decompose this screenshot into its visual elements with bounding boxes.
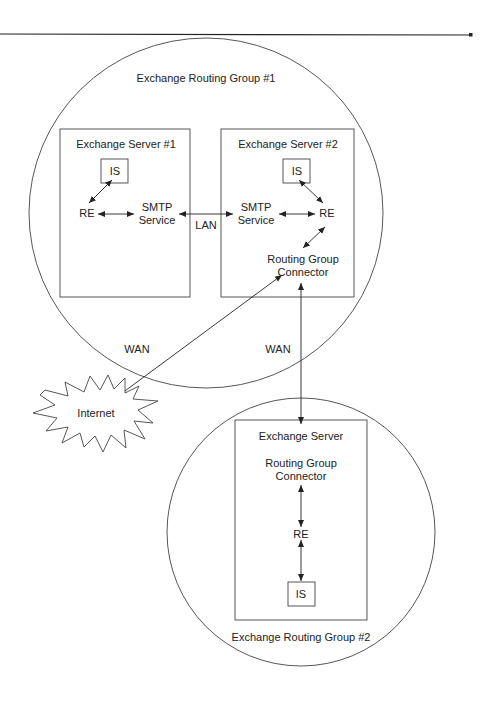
server-1-smtp-line2: Service — [139, 214, 176, 227]
server-2-re-label: RE — [319, 207, 334, 220]
arrow-is-re-2 — [299, 180, 323, 203]
arrow-re-rgc-2 — [303, 227, 325, 248]
server-1-re-label: RE — [79, 207, 94, 220]
routing-group-2-label: Exchange Routing Group #2 — [232, 631, 371, 644]
wan-routing-groups-label: WAN — [265, 343, 290, 356]
server-2-title: Exchange Server #2 — [238, 138, 338, 151]
network-diagram — [0, 0, 494, 703]
internet-label: Internet — [77, 407, 114, 420]
server-1-smtp-label: SMTP Service — [139, 201, 176, 227]
server-1-title: Exchange Server #1 — [76, 138, 176, 151]
top-rule-end-mark — [469, 33, 473, 37]
server-3-title: Exchange Server — [259, 430, 343, 443]
server-2-smtp-label: SMTP Service — [238, 201, 275, 227]
server-3-re-label: RE — [293, 528, 308, 541]
server-1-is-label: IS — [110, 165, 120, 178]
top-rule — [0, 34, 472, 35]
lan-label: LAN — [195, 219, 216, 232]
routing-group-1-label: Exchange Routing Group #1 — [137, 72, 276, 85]
server-2-rgc-label: Routing Group Connector — [267, 253, 339, 279]
server-2-smtp-line1: SMTP — [238, 201, 275, 214]
server-3-rgc-label: Routing Group Connector — [265, 457, 337, 483]
server-2-rgc-line2: Connector — [267, 266, 339, 279]
arrow-is-re-1 — [89, 180, 112, 203]
arrow-wan-internet — [110, 275, 282, 402]
server-3-rgc-line1: Routing Group — [265, 457, 337, 470]
server-2-is-label: IS — [292, 165, 302, 178]
server-3-is-label: IS — [296, 588, 306, 601]
server-1-smtp-line1: SMTP — [139, 201, 176, 214]
server-3-rgc-line2: Connector — [265, 470, 337, 483]
server-2-smtp-line2: Service — [238, 214, 275, 227]
server-2-rgc-line1: Routing Group — [267, 253, 339, 266]
wan-internet-label: WAN — [124, 343, 149, 356]
